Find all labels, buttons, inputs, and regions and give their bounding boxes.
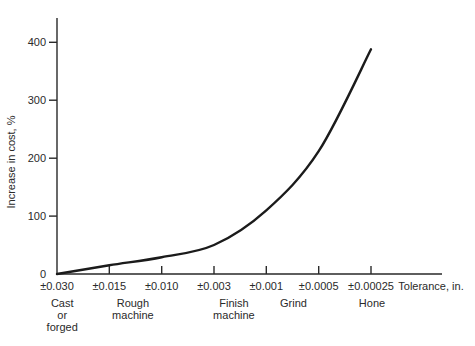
x-tick-label: ±0.003 bbox=[197, 280, 231, 292]
y-tick-label: 100 bbox=[28, 210, 46, 222]
x-axis-title: Tolerance, in. bbox=[398, 280, 463, 292]
process-label: Grind bbox=[280, 297, 307, 309]
axes-line bbox=[57, 18, 442, 274]
chart-canvas: Tolerance, in. Increase in cost, % 01002… bbox=[0, 0, 475, 346]
x-tick-label: ±0.001 bbox=[250, 280, 284, 292]
process-label: forged bbox=[47, 321, 78, 333]
y-tick-label: 0 bbox=[40, 268, 46, 280]
y-axis-title: Increase in cost, % bbox=[5, 115, 17, 208]
cost-curve bbox=[57, 49, 371, 274]
process-label: or bbox=[57, 309, 67, 321]
x-tick-label: ±0.0005 bbox=[299, 280, 339, 292]
process-label: Hone bbox=[359, 297, 385, 309]
process-label: machine bbox=[112, 309, 154, 321]
y-tick-label: 300 bbox=[28, 94, 46, 106]
x-tick-label: ±0.010 bbox=[145, 280, 179, 292]
x-tick-label: ±0.015 bbox=[93, 280, 127, 292]
y-tick-label: 200 bbox=[28, 152, 46, 164]
cost-vs-tolerance-figure: Tolerance, in. Increase in cost, % 01002… bbox=[0, 0, 475, 346]
process-label: Finish bbox=[219, 297, 248, 309]
process-label: machine bbox=[213, 309, 255, 321]
process-label: Cast bbox=[51, 297, 74, 309]
x-tick-label: ±0.00025 bbox=[348, 280, 394, 292]
y-tick-label: 400 bbox=[28, 36, 46, 48]
x-tick-label: ±0.030 bbox=[40, 280, 74, 292]
process-label: Rough bbox=[117, 297, 149, 309]
